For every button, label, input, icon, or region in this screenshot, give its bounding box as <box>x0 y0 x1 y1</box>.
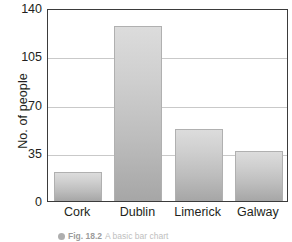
y-axis-tick-label: 140 <box>8 3 42 16</box>
figure-caption: Fig. 18.2 A basic bar chart <box>58 231 168 241</box>
y-axis-tick-label: 105 <box>8 51 42 64</box>
y-axis-tick-label: 35 <box>8 148 42 161</box>
caption-description: A basic bar chart <box>105 231 168 241</box>
bar-chart-figure: No. of people 03570105140 CorkDublinLime… <box>0 0 292 242</box>
plot-area <box>47 9 288 202</box>
y-axis-tick-label: 70 <box>8 100 42 113</box>
x-axis-tick-label: Limerick <box>168 205 228 219</box>
x-axis-tick-label: Cork <box>47 205 107 219</box>
filled-circle-icon <box>58 233 65 240</box>
y-axis-tick-labels: 03570105140 <box>4 0 42 242</box>
x-axis-tick-label: Dublin <box>107 205 167 219</box>
bar <box>54 172 102 201</box>
bar <box>175 129 223 201</box>
caption-figure-number: Fig. 18.2 <box>68 231 102 241</box>
x-axis-tick-labels: CorkDublinLimerickGalway <box>47 205 288 225</box>
bar <box>235 151 283 201</box>
y-axis-tick-label: 0 <box>8 196 42 209</box>
bar-series <box>48 10 287 201</box>
x-axis-tick-label: Galway <box>228 205 288 219</box>
bar <box>114 26 162 201</box>
